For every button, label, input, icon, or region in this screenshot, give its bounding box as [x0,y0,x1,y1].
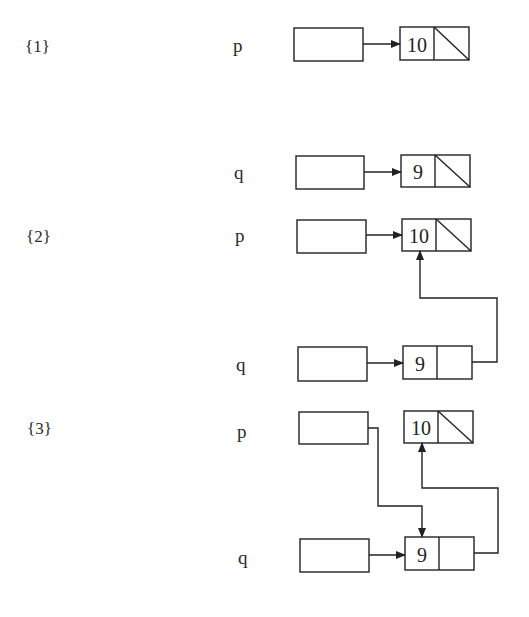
pointer-label-p: p [235,226,245,245]
pointer-label-q: q [236,355,246,374]
step-label: {1} [25,38,50,55]
step-1 [294,27,470,189]
step-label: {2} [26,228,51,245]
pointer-label-q: q [238,548,248,567]
step-label: {3} [27,420,52,437]
node-value: 10 [404,418,438,438]
step-3 [299,411,498,572]
pointer-box-p [294,28,363,61]
null-pointer-slash [438,411,473,443]
null-pointer-slash [434,27,469,60]
step-2 [297,219,497,381]
node-value: 10 [402,226,436,246]
linked-list-diagram [0,0,529,617]
node-value: 9 [405,545,439,565]
pointer-label-p: p [233,36,243,55]
pointer-arrow [368,428,422,537]
pointer-box-q [300,539,369,572]
pointer-box-p [299,412,368,444]
pointer-box-p [297,220,366,253]
null-pointer-slash [436,219,471,251]
pointer-box-q [296,156,364,189]
pointer-label-q: q [234,163,244,182]
node-value: 10 [400,35,434,55]
pointer-box-q [298,347,367,381]
pointer-label-p: p [237,422,247,441]
node-value: 9 [401,162,435,182]
node-value: 9 [403,354,437,374]
null-pointer-slash [435,155,470,187]
